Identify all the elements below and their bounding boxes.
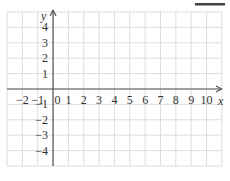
coordinate-plane: −2−1012345678910 4321−1−2−3−4 x y [0, 0, 230, 181]
y-tick-label: 3 [42, 36, 48, 50]
y-tick-label: 2 [42, 51, 48, 65]
y-tick-label: −3 [35, 128, 48, 142]
x-tick-label: 3 [96, 93, 102, 107]
x-axis-label: x [217, 94, 224, 108]
x-tick-label: 1 [65, 93, 71, 107]
coordinate-grid-figure: −2−1012345678910 4321−1−2−3−4 x y [0, 0, 230, 181]
x-tick-label: 10 [201, 93, 213, 107]
x-tick-label: −2 [16, 93, 29, 107]
y-axis-label: y [40, 9, 47, 23]
y-tick-label: −1 [35, 97, 48, 111]
x-tick-label: 8 [173, 93, 179, 107]
x-tick-label: 2 [81, 93, 87, 107]
x-tick-label: 4 [111, 93, 117, 107]
x-tick-label: 5 [127, 93, 133, 107]
x-tick-label: 6 [142, 93, 148, 107]
y-tick-label: 1 [42, 67, 48, 81]
y-tick-label: −2 [35, 113, 48, 127]
x-tick-label: 0 [55, 93, 61, 107]
y-tick-label: −4 [35, 144, 48, 158]
corner-bar [195, 3, 225, 6]
x-tick-label: 9 [188, 93, 194, 107]
x-tick-label: 7 [158, 93, 164, 107]
